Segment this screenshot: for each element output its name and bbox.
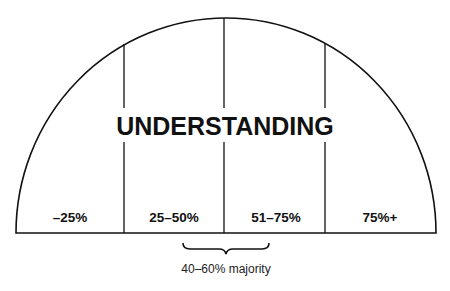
segment-label-1: –25%	[53, 210, 88, 225]
segment-label-4: 75%+	[363, 210, 398, 225]
segment-label-2: 25–50%	[149, 210, 199, 225]
majority-note: 40–60% majority	[181, 262, 270, 276]
segment-label-3: 51–75%	[251, 210, 301, 225]
curly-brace	[183, 243, 269, 254]
understanding-semicircle-diagram: UNDERSTANDING –25% 25–50% 51–75% 75%+ 40…	[0, 0, 450, 291]
diagram-title: UNDERSTANDING	[116, 112, 334, 140]
